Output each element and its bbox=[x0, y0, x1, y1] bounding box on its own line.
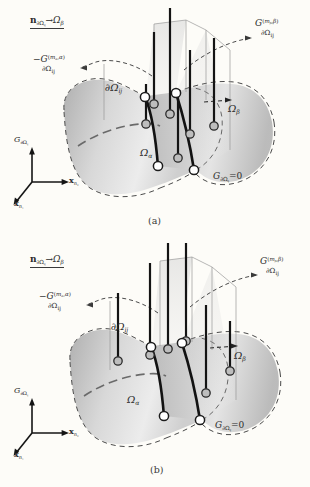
axis-label-depth-a: xn1 bbox=[14, 199, 23, 210]
flux-alpha-label-a: −G(mα,α) ∂Ωij bbox=[33, 55, 65, 74]
axis-label-vertical-a: G∂Ωij bbox=[14, 136, 28, 146]
domain-beta-label-b: Ωβ bbox=[234, 351, 246, 362]
domain-alpha-label-b: Ωα bbox=[127, 395, 139, 406]
domain-beta-label-a: Ωβ bbox=[228, 104, 240, 115]
interface-label-a: ∂Ωij bbox=[105, 83, 122, 94]
figure-panel-b: n∂Ωij→Ωβ G(mβ,β) ∂Ωij −G(mα,α) ∂Ωij ∂Ωij… bbox=[0, 243, 310, 487]
flux-alpha-label-b: −G(mα,α) ∂Ωij bbox=[39, 292, 71, 311]
normal-vector-label-b: n∂Ωij→Ωβ bbox=[30, 255, 64, 268]
axis-label-vertical-b: G∂Ωij bbox=[14, 387, 28, 397]
axis-label-right-b: xn2 bbox=[69, 427, 78, 438]
panel-b-graphic bbox=[0, 243, 310, 487]
level-set-zero-label-b: G∂Ωij=0 bbox=[215, 421, 244, 432]
axis-arrow-right bbox=[62, 430, 69, 436]
flux-beta-label-b: G(mβ,β) ∂Ωij bbox=[260, 257, 284, 276]
normal-vector-label-a: n∂Ωij→Ωβ bbox=[30, 16, 64, 29]
axis-arrow-up bbox=[29, 398, 35, 405]
axis-label-right-a: xn2 bbox=[69, 176, 78, 187]
level-set-zero-label-a: G∂Ωij=0 bbox=[213, 172, 242, 183]
axis-triad bbox=[14, 147, 69, 205]
axis-label-depth-b: xn1 bbox=[14, 450, 23, 461]
figure-panel-a: n∂Ωij→Ωβ G(mβ,β) ∂Ωij −G(mα,α) ∂Ωij ∂Ωij… bbox=[0, 0, 310, 244]
axis-arrow-up bbox=[29, 147, 35, 154]
panel-caption-b: (b) bbox=[150, 465, 164, 475]
flux-beta-label-a: G(mβ,β) ∂Ωij bbox=[255, 19, 279, 38]
axis-triad bbox=[14, 398, 69, 456]
panel-caption-a: (a) bbox=[148, 216, 161, 226]
axis-arrow-right bbox=[62, 179, 69, 185]
interface-label-b: ∂Ωij bbox=[111, 322, 128, 333]
domain-alpha-label-a: Ωα bbox=[140, 148, 152, 159]
